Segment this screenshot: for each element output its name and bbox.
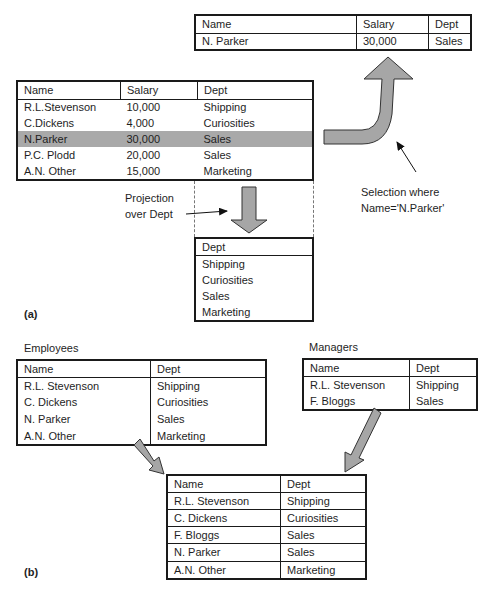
arrows-overlay bbox=[0, 0, 491, 594]
selection-arrow-icon bbox=[324, 57, 413, 144]
union-arrow-right-icon bbox=[345, 408, 381, 472]
projection-arrow-icon bbox=[231, 187, 267, 233]
selection-pointer-icon bbox=[397, 142, 416, 172]
union-arrow-left-icon bbox=[134, 439, 164, 474]
projection-pointer-icon bbox=[186, 211, 227, 214]
